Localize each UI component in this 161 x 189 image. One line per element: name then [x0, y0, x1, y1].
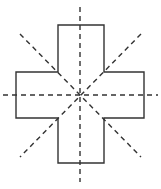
figure-container [0, 0, 161, 189]
symmetry-diagram [0, 0, 161, 189]
